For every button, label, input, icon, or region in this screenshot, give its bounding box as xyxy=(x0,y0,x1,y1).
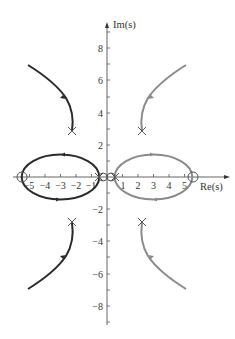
branch-upper-left xyxy=(28,65,73,131)
xtick-label: −2 xyxy=(71,180,82,191)
x-axis-label: Re(s) xyxy=(200,181,223,193)
ytick-label: 4 xyxy=(98,108,103,119)
imag-axis-arrow-icon xyxy=(105,22,109,28)
arrow-left-icon xyxy=(153,198,157,202)
arrow-left-icon xyxy=(61,153,65,157)
ytick-label: −6 xyxy=(92,269,103,280)
ytick-label: −4 xyxy=(92,236,103,247)
xtick-label: 4 xyxy=(167,180,172,191)
ytick-label: −2 xyxy=(92,204,103,215)
y-axis-label: Im(s) xyxy=(113,19,136,31)
x-tick-labels: −5 −4 −3 −2 −1 1 2 3 4 5 xyxy=(24,180,187,191)
root-locus-plot: −5 −4 −3 −2 −1 1 2 3 4 5 8 6 4 2 −2 xyxy=(0,0,235,339)
branch-upper-right xyxy=(141,65,186,131)
ytick-label: 8 xyxy=(98,43,103,54)
xtick-label: 2 xyxy=(136,180,141,191)
xtick-label: 3 xyxy=(151,180,156,191)
ytick-label: −8 xyxy=(92,301,103,312)
real-axis-arrow-icon xyxy=(224,175,230,179)
arrow-right-icon xyxy=(150,153,154,157)
xtick-label: −1 xyxy=(86,180,97,191)
y-tick-labels: 8 6 4 2 −2 −4 −6 −8 xyxy=(92,43,103,312)
ytick-label: 6 xyxy=(98,75,103,86)
xtick-label: −3 xyxy=(55,180,66,191)
arrow-right-icon xyxy=(56,198,60,202)
xtick-label: −4 xyxy=(40,180,51,191)
branch-lower-left xyxy=(28,223,73,289)
branch-lower-right xyxy=(141,223,186,289)
axes xyxy=(13,22,230,325)
ytick-label: 2 xyxy=(98,140,103,151)
